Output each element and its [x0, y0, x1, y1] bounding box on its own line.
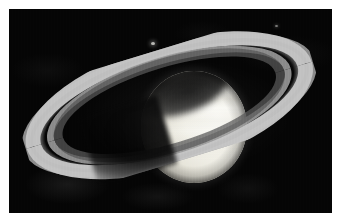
saturn-scene — [9, 9, 332, 213]
moon-2 — [275, 25, 278, 27]
sky-background — [9, 9, 332, 213]
moon-1 — [151, 42, 155, 45]
photo-frame — [0, 0, 342, 223]
